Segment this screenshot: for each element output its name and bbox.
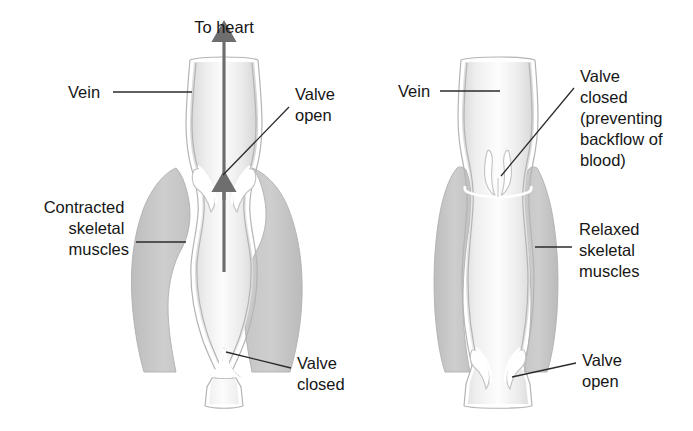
right-vein-top-rim [461,57,535,60]
contracted-muscle-line-1: Contracted [44,198,125,216]
left-vein-label: Vein [68,83,100,101]
right-valve-closed-line-1: Valve [580,67,620,85]
venous-valve-figure: To heart Vein Valve open Contracted skel… [0,0,693,431]
right-vein-label: Vein [398,82,430,100]
left-valve-open-line-2: open [295,106,332,124]
contracted-muscle-left [131,168,190,372]
right-valve-closed-line-3: (preventing [580,109,663,127]
contracted-muscle-label: Contracted skeletal muscles [44,198,129,258]
left-valve-closed-line-2: closed [297,375,345,393]
right-valve-closed-line-4: backflow of [580,130,663,148]
left-valve-closed-label: Valve closed [297,354,345,393]
right-valve-closed-line-5: blood) [580,151,626,169]
to-heart-label: To heart [194,18,254,36]
left-valve-open-label: Valve open [295,85,340,124]
right-valve-closed-line-2: closed [580,88,628,106]
diagram-canvas: To heart Vein Valve open Contracted skel… [0,0,693,431]
contracted-muscle-line-2: skeletal [68,219,124,237]
left-valve-closed-line-1: Valve [297,354,337,372]
right-panel-graphic [434,57,576,408]
relaxed-muscle-label: Relaxed skeletal muscles [579,220,644,280]
left-panel-graphic [113,36,302,408]
relaxed-muscle-line-3: muscles [579,262,640,280]
right-valve-open-label: Valve open [582,351,627,390]
contracted-muscle-line-3: muscles [68,240,129,258]
relaxed-muscle-left [434,167,471,372]
left-vein-bottom-rim [205,406,243,408]
right-valve-open-line-1: Valve [582,351,622,369]
relaxed-muscle-line-1: Relaxed [579,220,640,238]
right-valve-open-line-2: open [582,372,619,390]
right-vein-bottom-rim [464,406,532,408]
relaxed-muscle-line-2: skeletal [579,241,635,259]
right-valve-closed-label: Valve closed (preventing backflow of blo… [580,67,667,169]
left-valve-open-line-1: Valve [295,85,335,103]
